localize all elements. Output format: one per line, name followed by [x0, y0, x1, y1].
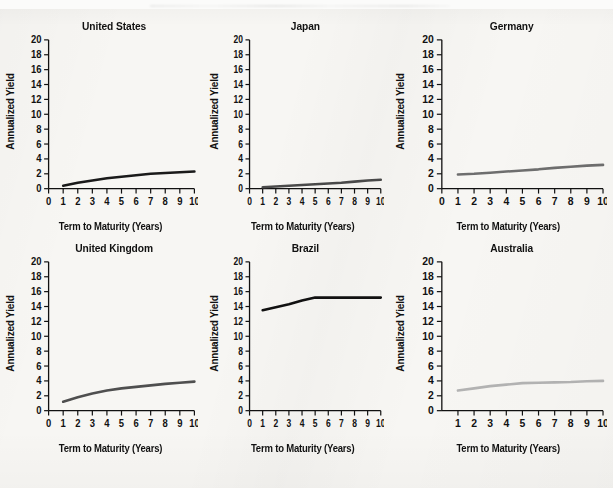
x-tick-label: 6 — [133, 195, 139, 206]
x-tick-label: 10 — [189, 417, 198, 428]
y-tick-label: 14 — [234, 78, 244, 90]
x-axis-label: Term to Maturity (Years) — [5, 221, 199, 232]
x-tick-label: 0 — [247, 195, 252, 207]
y-tick-label: 16 — [234, 285, 243, 297]
y-tick-label: 6 — [36, 138, 42, 149]
x-tick-label: 5 — [119, 417, 125, 428]
y-tick-label: 4 — [238, 375, 243, 387]
x-tick-label: 8 — [163, 417, 169, 428]
y-tick-label: 4 — [36, 153, 42, 164]
x-tick-label: 7 — [339, 195, 344, 207]
y-tick-label: 2 — [238, 168, 243, 180]
plot-area: 02468101214161820012345678910 — [18, 34, 198, 220]
y-axis-label-text: Annualized Yield — [209, 295, 220, 371]
y-tick-label: 8 — [238, 345, 243, 357]
x-tick-label: 0 — [46, 195, 52, 206]
y-axis-label-text: Annualized Yield — [209, 73, 220, 149]
plot-svg: 0246810121416182012345678910 — [408, 256, 607, 442]
x-tick-label: 4 — [300, 195, 305, 207]
x-tick-label: 6 — [326, 417, 331, 429]
y-tick-label: 10 — [31, 108, 42, 119]
panel-title: Germany — [398, 20, 605, 32]
chart-panel-grid: United States Annualized Yield 024681012… — [0, 14, 613, 488]
x-tick-label: 3 — [487, 196, 493, 207]
x-tick-label: 2 — [471, 418, 477, 429]
x-tick-label: 9 — [177, 417, 183, 428]
panel-title: United States — [7, 20, 197, 32]
chart-panel-australia: Australia Annualized Yield 0246810121416… — [390, 236, 613, 458]
y-tick-label: 18 — [31, 271, 42, 282]
y-tick-label: 4 — [238, 153, 243, 165]
x-tick-label: 9 — [584, 418, 590, 429]
y-tick-label: 8 — [238, 123, 243, 135]
chart-panel-united-kingdom: United Kingdom Annualized Yield 02468101… — [0, 236, 204, 458]
y-tick-label: 4 — [36, 375, 42, 386]
y-tick-label: 14 — [234, 300, 244, 312]
data-series-line — [458, 381, 603, 391]
plot-area: 02468101214161820012345678910 — [222, 34, 384, 220]
y-tick-label: 12 — [234, 315, 243, 327]
x-tick-label: 10 — [597, 196, 607, 207]
panel-title: Australia — [398, 242, 605, 254]
x-tick-label: 2 — [75, 417, 81, 428]
panel-title: United Kingdom — [7, 242, 197, 254]
chart-panel-brazil: Brazil Annualized Yield 0246810121416182… — [204, 236, 390, 458]
x-tick-label: 5 — [313, 417, 318, 429]
y-tick-label: 0 — [36, 183, 42, 194]
x-tick-label: 3 — [287, 195, 292, 207]
x-tick-label: 1 — [61, 195, 67, 206]
y-tick-label: 10 — [422, 331, 434, 342]
y-tick-label: 10 — [234, 108, 243, 120]
data-series-line — [63, 382, 194, 402]
plot-svg: 02468101214161820012345678910 — [408, 34, 607, 220]
x-tick-label: 1 — [260, 195, 265, 207]
y-tick-label: 8 — [36, 345, 42, 356]
y-axis-label-text: Annualized Yield — [395, 295, 406, 371]
y-tick-label: 14 — [31, 79, 42, 90]
y-tick-label: 16 — [422, 286, 434, 297]
x-tick-label: 9 — [365, 195, 370, 207]
x-tick-label: 5 — [313, 195, 318, 207]
y-tick-label: 0 — [428, 183, 434, 194]
y-tick-label: 18 — [422, 271, 434, 282]
x-axis-label: Term to Maturity (Years) — [209, 443, 386, 454]
y-tick-label: 14 — [422, 79, 434, 90]
y-tick-label: 12 — [234, 93, 243, 105]
y-tick-label: 20 — [234, 256, 243, 268]
x-axis-label: Term to Maturity (Years) — [396, 443, 608, 454]
x-tick-label: 5 — [520, 418, 526, 429]
x-tick-label: 10 — [376, 195, 384, 207]
y-tick-label: 16 — [234, 63, 243, 75]
x-tick-label: 0 — [439, 196, 445, 207]
y-axis-label: Annualized Yield — [3, 0, 17, 222]
x-tick-label: 10 — [376, 417, 384, 429]
plot-svg: 02468101214161820012345678910 — [18, 34, 198, 220]
x-tick-label: 2 — [75, 195, 81, 206]
y-tick-label: 14 — [422, 301, 434, 312]
y-tick-label: 2 — [428, 168, 434, 179]
x-tick-label: 1 — [260, 417, 265, 429]
y-tick-label: 12 — [422, 94, 434, 105]
panel-title: Brazil — [211, 242, 384, 254]
x-axis-label: Term to Maturity (Years) — [396, 221, 608, 232]
y-tick-label: 18 — [422, 49, 434, 60]
x-tick-label: 7 — [552, 418, 558, 429]
y-tick-label: 12 — [31, 94, 42, 105]
x-tick-label: 5 — [119, 195, 125, 206]
y-tick-label: 10 — [31, 330, 42, 341]
y-axis-label-text: Annualized Yield — [395, 73, 406, 149]
cropped-caption-strip — [0, 0, 613, 9]
plot-area: 02468101214161820012345678910 — [18, 256, 198, 442]
x-tick-label: 4 — [104, 417, 110, 428]
x-tick-label: 10 — [597, 418, 607, 429]
x-tick-label: 6 — [536, 418, 542, 429]
y-tick-label: 6 — [238, 138, 243, 150]
x-tick-label: 10 — [189, 195, 198, 206]
x-tick-label: 9 — [365, 417, 370, 429]
y-tick-label: 10 — [422, 109, 434, 120]
y-tick-label: 20 — [422, 256, 434, 267]
x-tick-label: 8 — [568, 418, 574, 429]
x-tick-label: 2 — [273, 195, 278, 207]
y-tick-label: 2 — [428, 390, 434, 401]
y-tick-label: 0 — [238, 182, 243, 194]
